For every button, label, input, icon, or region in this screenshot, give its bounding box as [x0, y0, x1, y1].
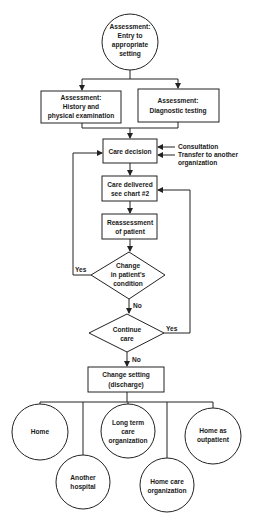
reassessment-line-1: Reassessment — [107, 219, 154, 226]
entry-line-4: setting — [119, 50, 141, 58]
home-label: Home — [31, 428, 50, 435]
change-condition-line-3: condition — [113, 280, 143, 287]
diagnostic-box — [138, 89, 219, 122]
long-term-line-3: organization — [108, 437, 147, 445]
another-hospital-circle — [56, 455, 110, 509]
history-line-3: physical examination — [48, 112, 115, 120]
diagnostic-line-1: Assessment: — [157, 97, 198, 104]
outpatient-line-2: outpatient — [197, 436, 230, 444]
home-care-circle — [140, 458, 194, 512]
care-decision-label: Care decision — [108, 148, 151, 155]
continue-yes-label: Yes — [166, 325, 178, 332]
change-setting-line-1: Change setting — [102, 371, 150, 379]
care-delivered-line-2: see chart #2 — [111, 190, 149, 197]
another-hospital-line-2: hospital — [70, 483, 95, 491]
reassessment-line-2: of patient — [115, 228, 145, 236]
condition-yes-label: Yes — [75, 266, 87, 273]
long-term-line-1: Long term — [112, 419, 144, 427]
home-care-line-1: Home care — [150, 478, 184, 485]
entry-line-1: Assessment: — [109, 23, 150, 30]
care-delivered-box — [102, 176, 157, 201]
entry-line-2: Entry to — [118, 32, 143, 40]
care-delivered-line-1: Care delivered — [107, 181, 152, 188]
continue-care-line-2: care — [120, 335, 134, 342]
home-care-line-2: organization — [147, 487, 186, 495]
condition-no-label: No — [133, 302, 142, 309]
diagnostic-line-2: Diagnostic testing — [149, 107, 206, 115]
consultation-label: Consultation — [178, 143, 218, 150]
continue-care-line-1: Continue — [113, 326, 142, 333]
reassessment-box — [102, 214, 157, 239]
continue-no-label: No — [132, 356, 141, 363]
continue-care-diamond — [89, 314, 164, 352]
entry-line-3: appropriate — [112, 41, 149, 49]
change-condition-line-2: in patient's — [111, 271, 146, 279]
transfer-line-1: Transfer to another — [178, 151, 239, 158]
change-setting-line-2: (discharge) — [108, 381, 144, 389]
long-term-line-2: care — [121, 428, 135, 435]
change-condition-line-1: Change — [116, 262, 141, 270]
history-line-2: History and — [63, 103, 99, 111]
transfer-line-2: organization — [178, 159, 217, 167]
outpatient-line-1: Home as — [199, 427, 227, 434]
care-flowchart: Assessment: Entry to appropriate setting… — [0, 0, 259, 525]
history-line-1: Assessment: — [60, 94, 101, 101]
another-hospital-line-1: Another — [70, 474, 96, 481]
